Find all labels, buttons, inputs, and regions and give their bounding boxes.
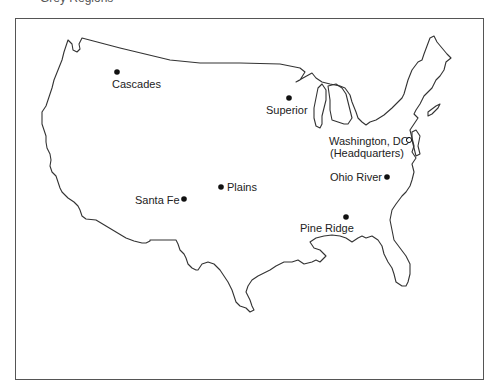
label-cascades: Cascades (112, 78, 161, 90)
superior-marker (286, 95, 292, 101)
label-superior: Superior (266, 104, 308, 116)
label-pine-ridge: Pine Ridge (300, 222, 354, 234)
label-plains: Plains (227, 181, 257, 193)
cascades-marker (114, 69, 120, 75)
label-washington-dc-name: Washington, DC (329, 135, 405, 147)
santa-fe-marker (181, 196, 187, 202)
label-ohio-river: Ohio River (330, 171, 382, 183)
pine-ridge-marker (343, 214, 349, 220)
label-washington-dc-sub: (Headquarters) (329, 147, 405, 159)
site-markers (0, 0, 501, 391)
label-washington-dc: Washington, DC (Headquarters) (329, 135, 405, 159)
ohio-river-marker (384, 174, 390, 180)
label-santa-fe: Santa Fe (135, 194, 180, 206)
plains-marker (218, 184, 224, 190)
